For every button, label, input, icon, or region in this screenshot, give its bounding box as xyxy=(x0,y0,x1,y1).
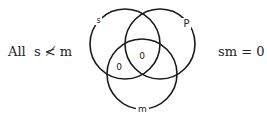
equation-text: sm = 0 xyxy=(218,44,264,59)
label-p: P xyxy=(183,18,189,29)
region-mark-s-p-m: 0 xyxy=(139,51,145,61)
label-s: s xyxy=(96,16,100,25)
label-m: m xyxy=(138,104,147,114)
region-mark-s-m: 0 xyxy=(116,62,122,72)
